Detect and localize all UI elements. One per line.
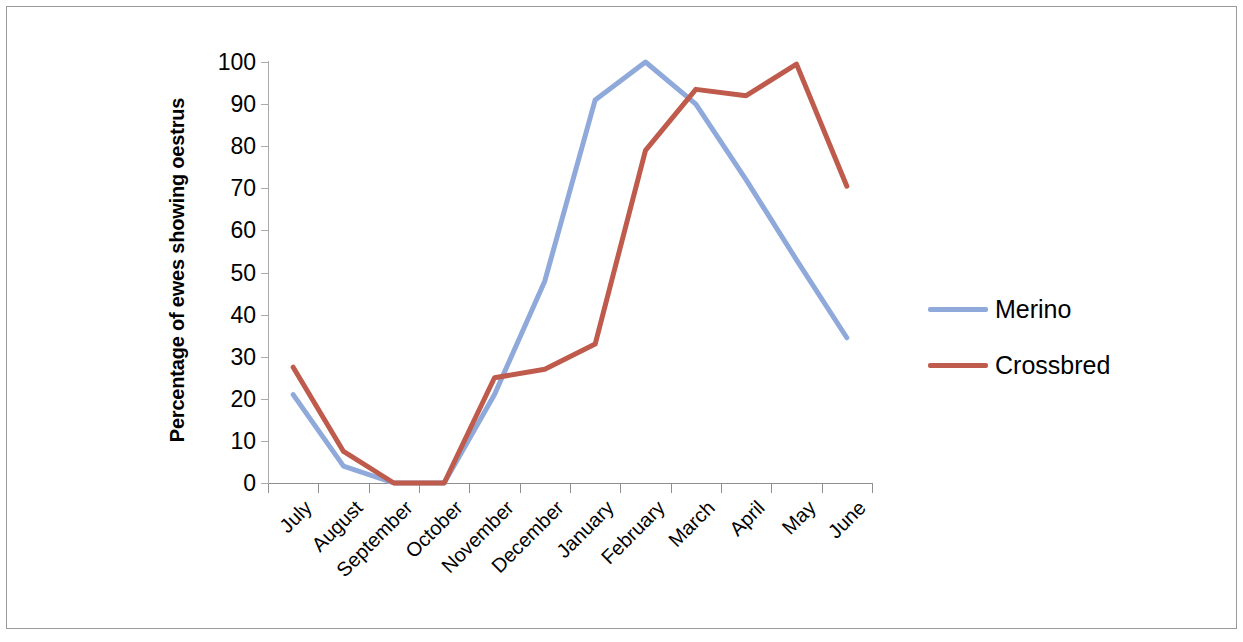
x-axis-tick-mark — [369, 484, 370, 493]
legend-color-swatch — [928, 307, 988, 312]
series-line-crossbred — [293, 64, 847, 483]
y-axis-title: Percentage of ewes showing oestrus — [163, 50, 191, 490]
x-axis-tick-mark — [318, 484, 319, 493]
x-axis-tick-mark — [771, 484, 772, 493]
y-axis-tick-label: 40 — [196, 304, 256, 327]
y-axis-tick-label: 60 — [196, 219, 256, 242]
x-axis-tick-mark — [671, 484, 672, 493]
plot-area — [268, 62, 872, 483]
legend-entry-merino: Merino — [928, 281, 1168, 337]
y-axis-tick-label: 70 — [196, 177, 256, 200]
y-axis-tick-label: 10 — [196, 430, 256, 453]
x-axis-tick-mark — [469, 484, 470, 493]
y-axis-tick-label-group: 0102030405060708090100 — [196, 48, 256, 498]
x-axis-tick-mark — [620, 484, 621, 493]
legend-label: Merino — [995, 297, 1071, 322]
x-axis-tick-mark — [570, 484, 571, 493]
y-axis-tick-label: 80 — [196, 135, 256, 158]
y-axis-tick-label: 20 — [196, 388, 256, 411]
chart-legend: MerinoCrossbred — [928, 281, 1168, 393]
legend-label: Crossbred — [995, 353, 1110, 378]
x-axis-tick-mark — [520, 484, 521, 493]
series-line-merino — [293, 62, 847, 483]
y-axis-tick-label: 100 — [196, 51, 256, 74]
legend-entry-crossbred: Crossbred — [928, 337, 1168, 393]
x-axis-tick-mark — [721, 484, 722, 493]
x-axis-tick-mark — [872, 484, 873, 493]
series-lines-svg — [268, 62, 872, 483]
legend-color-swatch — [928, 363, 988, 368]
x-axis-tick-mark — [822, 484, 823, 493]
y-axis-tick-label: 50 — [196, 262, 256, 285]
y-axis-title-text: Percentage of ewes showing oestrus — [166, 98, 189, 442]
y-axis-tick-label: 90 — [196, 93, 256, 116]
x-axis-tick-mark — [268, 484, 269, 493]
y-axis-tick-label: 30 — [196, 346, 256, 369]
y-axis-tick-label: 0 — [196, 472, 256, 495]
line-chart-figure: Percentage of ewes showing oestrus 01020… — [0, 0, 1243, 642]
